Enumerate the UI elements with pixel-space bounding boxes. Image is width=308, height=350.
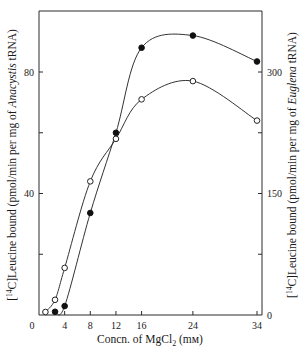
y-right-tick-label: 300 — [267, 67, 282, 78]
x-axis-title: Concn. of MgCl2 (mм) — [97, 333, 203, 348]
chart: 0481216243440800150300 Concn. of MgCl2 (… — [0, 0, 308, 350]
open-circle-marker-icon — [139, 97, 145, 103]
data-points — [43, 33, 260, 315]
filled-circle-marker-icon — [87, 210, 93, 216]
y-right-axis-title: [14C]Leucine bound (pmol/min per mg of E… — [285, 32, 299, 298]
open-circle-marker-icon — [52, 297, 58, 303]
x-tick-label: 16 — [137, 320, 147, 331]
open-circle-marker-icon — [113, 136, 119, 142]
open-circle-marker-icon — [62, 265, 68, 271]
y-left-tick-label: 80 — [24, 67, 34, 78]
data-curves — [45, 34, 257, 315]
x-tick-label: 4 — [62, 320, 67, 331]
open-circle-marker-icon — [43, 309, 49, 315]
plot-frame — [39, 11, 262, 315]
y-right-tick-label: 0 — [267, 310, 272, 321]
x-tick-label: 8 — [88, 320, 93, 331]
open-circle-marker-icon — [87, 179, 93, 185]
x-tick-label: 24 — [188, 320, 198, 331]
x-tick-label: 0 — [30, 320, 35, 331]
filled-circle-marker-icon — [190, 33, 196, 39]
y-left-axis-title: [14C]Leucine bound (pmol/min per mg of A… — [5, 29, 19, 301]
x-tick-label: 34 — [252, 320, 262, 331]
filled-circle-marker-icon — [139, 45, 145, 51]
filled-circle-marker-icon — [113, 130, 119, 136]
open-circle-marker-icon — [190, 78, 196, 84]
x-tick-label: 12 — [111, 320, 121, 331]
axis-labels: Concn. of MgCl2 (mм)[14C]Leucine bound (… — [5, 29, 299, 348]
filled-circle-marker-icon — [254, 59, 260, 65]
curve-anacystis-trna — [45, 80, 257, 311]
y-right-tick-label: 150 — [267, 188, 282, 199]
open-circle-marker-icon — [254, 118, 260, 124]
curve-euglena-trna — [55, 34, 257, 315]
y-left-tick-label: 40 — [24, 188, 34, 199]
axis-ticks: 0481216243440800150300 — [24, 67, 282, 332]
filled-circle-marker-icon — [62, 303, 68, 309]
filled-circle-marker-icon — [52, 309, 58, 315]
